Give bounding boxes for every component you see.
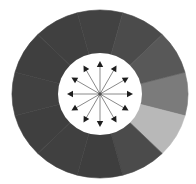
- donut-arrow-diagram: [0, 0, 196, 184]
- center-point-icon: [98, 92, 102, 96]
- radial-diagram: [0, 0, 196, 184]
